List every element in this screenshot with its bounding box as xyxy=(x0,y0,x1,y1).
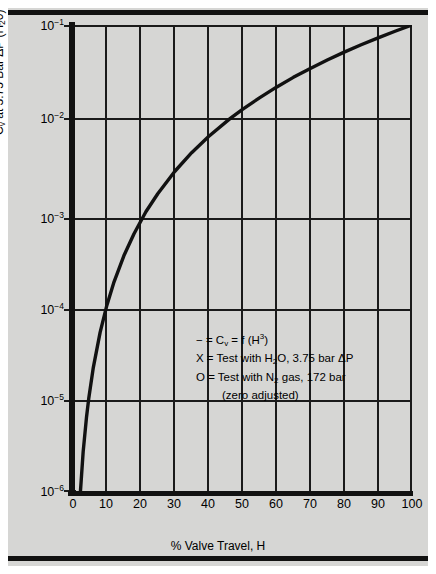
y-tick-label: 10−3 xyxy=(40,210,64,226)
bottom-rule xyxy=(8,556,428,561)
x-tick-label: 90 xyxy=(371,497,385,511)
x-tick-label: 20 xyxy=(133,497,147,511)
y-tick-exponent: −3 xyxy=(54,210,64,220)
curve-path xyxy=(76,25,412,492)
figure-root: Cv at 3.75 Bar ΔP (H20) 10−1 10−2 10−3 1… xyxy=(0,0,436,574)
x-tick-label: 100 xyxy=(402,497,423,511)
x-tick-label: 70 xyxy=(303,497,317,511)
data-curve-cubic xyxy=(73,25,412,492)
legend: − = Cv = f (H3) X = Test with H2O, 3.75 … xyxy=(196,330,353,403)
legend-n2-a: = Test with N xyxy=(205,371,274,383)
legend-o-symbol: O xyxy=(196,371,205,383)
y-tick-label: 10−6 xyxy=(40,483,64,499)
legend-dash-symbol: − xyxy=(196,334,203,346)
y-tick-exponent: −1 xyxy=(54,17,64,27)
legend-item-nitrogen: O = Test with N2 gas, 172 bar xyxy=(196,370,353,389)
x-tick-label: 40 xyxy=(201,497,215,511)
y-tick-exponent: −6 xyxy=(54,483,64,493)
legend-x-symbol: X xyxy=(196,352,204,364)
y-tick-label: 10−1 xyxy=(40,17,64,33)
y-tick-label-group: 10−1 10−2 10−3 10−4 10−5 10−6 xyxy=(0,0,64,574)
x-tick-label: 10 xyxy=(99,497,113,511)
legend-water-b: O, 3.75 bar ΔP xyxy=(277,352,353,364)
x-axis-title: % Valve Travel, H xyxy=(0,539,436,553)
x-tick-label: 80 xyxy=(337,497,351,511)
legend-n2-b: gas, 172 bar xyxy=(279,371,346,383)
y-tick-label: 10−5 xyxy=(40,392,64,408)
x-tick-label: 50 xyxy=(235,497,249,511)
y-tick-exponent: −2 xyxy=(54,110,64,120)
x-tick-label: 60 xyxy=(269,497,283,511)
legend-water-a: = Test with H xyxy=(204,352,273,364)
legend-note-zero-adjusted: (zero adjusted) xyxy=(196,388,353,403)
x-tick-label: 0 xyxy=(70,497,77,511)
plot-area xyxy=(73,25,412,492)
legend-curve-end: ) xyxy=(264,334,268,346)
legend-item-water: X = Test with H2O, 3.75 bar ΔP xyxy=(196,351,353,370)
y-tick-label: 10−2 xyxy=(40,110,64,126)
y-tick-exponent: −4 xyxy=(54,301,64,311)
top-rule xyxy=(8,10,428,15)
y-tick-label: 10−4 xyxy=(40,301,64,317)
legend-curve-eq: = C xyxy=(203,334,224,346)
y-tick-exponent: −5 xyxy=(54,392,64,402)
x-tick-label: 30 xyxy=(167,497,181,511)
legend-item-curve: − = Cv = f (H3) xyxy=(196,330,353,351)
legend-curve-mid: = f (H xyxy=(228,334,260,346)
